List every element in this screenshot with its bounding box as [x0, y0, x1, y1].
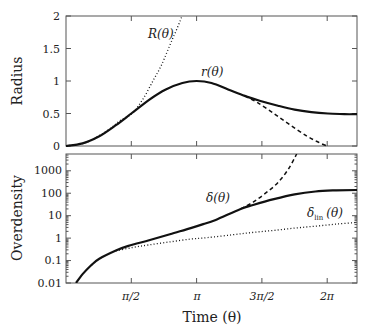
bottom-ytick-label: 0.01: [38, 277, 63, 290]
xtick-label: 3π/2: [250, 290, 275, 303]
xtick-label: π: [192, 290, 201, 303]
delta-lin-symbol: δ: [307, 206, 314, 220]
figure: 2 1.5 1 0.5 0 1000 100 10 1 0.1 0.01 π/2…: [0, 0, 370, 336]
top-panel-ticks: [66, 16, 357, 146]
bottom-ytick-label: 0.1: [45, 254, 63, 267]
r-theta-label: r(θ): [201, 65, 224, 79]
bottom-y-axis-title: Overdensity: [9, 175, 25, 261]
bottom-ytick-label: 100: [41, 187, 62, 200]
delta-lin-argument: (θ): [326, 206, 343, 220]
top-panel-frame: [66, 16, 357, 146]
top-ytick-label: 0.5: [43, 108, 61, 121]
delta-lin-subscript: lin: [314, 214, 323, 222]
delta-lin-theta-label: δlin(θ): [307, 206, 343, 222]
x-axis-title: Time (θ): [182, 309, 241, 325]
curve-dotted: [116, 222, 357, 251]
R-theta-label: R(θ): [147, 27, 174, 41]
curve-solid: [66, 81, 357, 146]
bottom-ytick-label: 1000: [34, 164, 62, 177]
xtick-label: 2π: [319, 290, 335, 303]
top-panel-curves: [66, 16, 357, 146]
top-ytick-label: 1.5: [43, 43, 61, 56]
top-ytick-label: 2: [53, 10, 60, 23]
top-ytick-label: 1: [53, 75, 60, 88]
bottom-ytick-label: 10: [48, 209, 62, 222]
bottom-ytick-label: 1: [55, 232, 62, 245]
top-ytick-label: 0: [53, 140, 60, 153]
top-y-axis-title: Radius: [9, 57, 25, 106]
curve-dashed: [245, 96, 327, 146]
delta-theta-label: δ(θ): [206, 191, 230, 205]
xtick-label: π/2: [121, 290, 140, 303]
